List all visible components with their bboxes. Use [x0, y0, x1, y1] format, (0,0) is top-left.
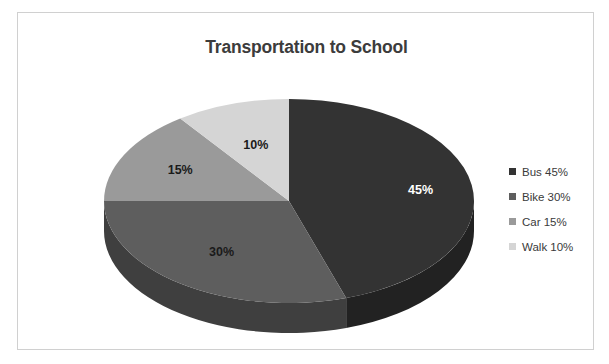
pie-data-label-bike: 30%: [209, 245, 234, 259]
pie-data-label-walk: 10%: [243, 138, 268, 152]
legend-item-bus[interactable]: Bus 45%: [509, 159, 604, 184]
pie-data-label-bus: 45%: [408, 183, 433, 197]
legend-item-label: Bike 30%: [522, 191, 571, 203]
legend-swatch-icon: [509, 193, 516, 200]
legend-item-car[interactable]: Car 15%: [509, 209, 604, 234]
legend-swatch-icon: [509, 218, 516, 225]
legend-item-label: Car 15%: [522, 216, 567, 228]
chart-frame: Transportation to School 45%30%15%10% Bu…: [17, 12, 594, 350]
legend-item-label: Walk 10%: [522, 241, 573, 253]
pie-top-surface: [104, 99, 474, 303]
chart-legend: Bus 45%Bike 30%Car 15%Walk 10%: [509, 159, 604, 259]
legend-swatch-icon: [509, 243, 516, 250]
legend-swatch-icon: [509, 168, 516, 175]
legend-item-bike[interactable]: Bike 30%: [509, 184, 604, 209]
pie-data-label-car: 15%: [168, 163, 193, 177]
legend-item-label: Bus 45%: [522, 166, 568, 178]
legend-item-walk[interactable]: Walk 10%: [509, 234, 604, 259]
pie-chart-svg: 45%30%15%10%: [78, 73, 498, 363]
